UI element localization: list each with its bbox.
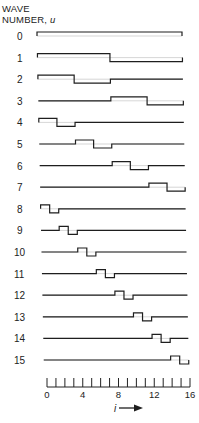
row-label: 9 — [17, 225, 23, 236]
tick-label: 12 — [149, 389, 160, 400]
axis-label-i: i — [114, 403, 117, 414]
row-label: 13 — [14, 312, 26, 323]
haar-waveform — [40, 162, 185, 170]
waveform-row-u10: 10 — [14, 247, 187, 258]
tick-label: 4 — [80, 389, 85, 400]
waveform-row-u2: 2 — [17, 74, 183, 85]
row-label: 8 — [17, 204, 23, 215]
row-label: 6 — [17, 161, 23, 172]
waveform-row-u4: 4 — [17, 117, 184, 128]
row-label: 14 — [14, 333, 26, 344]
row-label: 12 — [14, 290, 26, 301]
waveform-rows: 0123456789101112131415 — [14, 31, 189, 366]
waveform-row-u6: 6 — [17, 161, 185, 172]
haar-functions-diagram: 0123456789101112131415 0481216i — [0, 0, 199, 423]
row-label: 1 — [17, 53, 23, 64]
arrow-right-icon — [119, 405, 143, 412]
waveform-row-u14: 14 — [14, 333, 188, 344]
waveform-row-u12: 12 — [14, 290, 187, 301]
row-label: 11 — [14, 269, 25, 280]
waveform-row-u15: 15 — [14, 355, 189, 366]
row-label: 10 — [14, 247, 26, 258]
waveform-row-u1: 1 — [17, 53, 182, 64]
row-label: 4 — [17, 117, 23, 128]
tick-label: 16 — [185, 389, 196, 400]
row-label: 0 — [17, 31, 23, 42]
row-label: 7 — [17, 182, 23, 193]
haar-waveform — [42, 270, 187, 278]
waveform-row-u3: 3 — [17, 96, 183, 107]
waveform-row-u8: 8 — [17, 204, 186, 215]
row-label: 2 — [17, 74, 23, 85]
waveform-row-u0: 0 — [17, 31, 182, 42]
i-axis: 0481216i — [44, 378, 195, 414]
waveform-row-u11: 11 — [14, 269, 187, 280]
haar-waveform — [39, 140, 184, 148]
row-label: 3 — [17, 96, 23, 107]
haar-waveform — [42, 248, 187, 256]
waveform-row-u5: 5 — [17, 139, 184, 150]
waveform-row-u9: 9 — [17, 225, 186, 236]
row-label: 5 — [17, 139, 23, 150]
haar-waveform — [37, 32, 182, 36]
haar-waveform — [43, 313, 188, 321]
tick-label: 0 — [44, 389, 49, 400]
haar-waveform — [41, 205, 186, 213]
row-label: 15 — [14, 355, 26, 366]
haar-waveform — [42, 291, 187, 299]
waveform-row-u13: 13 — [14, 312, 188, 323]
tick-label: 8 — [116, 389, 121, 400]
waveform-row-u7: 7 — [17, 182, 185, 193]
haar-waveform — [44, 356, 189, 364]
